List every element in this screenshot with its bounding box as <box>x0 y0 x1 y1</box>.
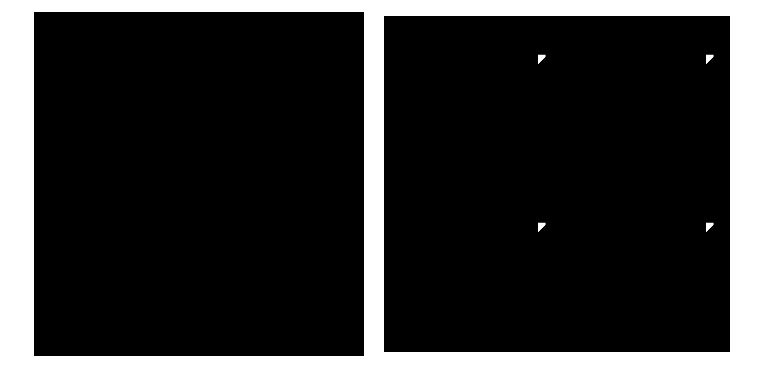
pattern-panel-left <box>0 0 378 373</box>
pattern-panel-right <box>379 0 757 373</box>
right-pattern-surface <box>384 16 730 352</box>
right-pattern-field <box>384 16 730 352</box>
left-pattern-surface <box>34 12 364 356</box>
pattern-comparison-figure <box>0 0 757 373</box>
left-pattern-field <box>34 12 364 356</box>
right-pattern-canvas <box>384 16 730 352</box>
left-pattern-canvas <box>34 12 364 356</box>
